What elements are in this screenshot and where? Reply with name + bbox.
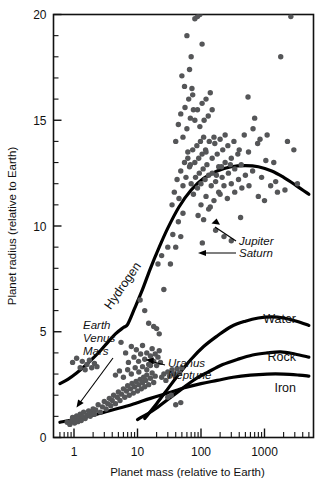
data-point xyxy=(206,113,211,118)
data-point xyxy=(238,215,243,220)
mass-radius-diagram: 051015201101001000Planet mass (relative … xyxy=(0,0,329,492)
data-point xyxy=(190,147,195,152)
data-point xyxy=(211,134,216,139)
data-point xyxy=(185,156,190,161)
data-point xyxy=(199,101,204,106)
data-point xyxy=(212,141,217,146)
neptune-label: Neptune xyxy=(168,369,211,381)
terrestrial-arrowhead xyxy=(77,400,84,408)
data-point xyxy=(169,202,174,207)
water-label: Water xyxy=(263,312,296,326)
data-point xyxy=(195,213,200,218)
uranus-label: Uranus xyxy=(168,357,205,369)
data-point xyxy=(148,376,153,381)
x-axis-title: Planet mass (relative to Earth) xyxy=(110,466,265,478)
data-point xyxy=(153,373,158,378)
data-point xyxy=(159,253,164,258)
data-point xyxy=(70,360,75,365)
data-point xyxy=(129,371,134,376)
data-point xyxy=(182,105,187,110)
data-point xyxy=(125,367,130,372)
data-point xyxy=(215,151,220,156)
data-point xyxy=(178,400,183,405)
data-point xyxy=(245,94,250,99)
data-point xyxy=(169,393,174,398)
data-point xyxy=(229,181,234,186)
jupiter-arrowhead xyxy=(212,219,221,225)
data-point xyxy=(178,234,183,239)
data-point xyxy=(126,360,131,365)
data-point xyxy=(217,192,222,197)
rock-label: Rock xyxy=(268,350,297,364)
data-point xyxy=(170,232,175,237)
data-point xyxy=(178,111,183,116)
y-tick-label-20: 20 xyxy=(33,8,47,22)
data-point xyxy=(93,407,98,412)
data-point xyxy=(199,41,204,46)
data-point xyxy=(123,350,128,355)
data-point xyxy=(98,409,103,414)
plot-canvas: 051015201101001000Planet mass (relative … xyxy=(0,0,329,492)
data-point xyxy=(173,402,178,407)
data-point xyxy=(220,147,225,152)
data-point xyxy=(250,168,255,173)
data-point xyxy=(182,160,187,165)
data-point xyxy=(200,166,205,171)
jupiter-leader-line xyxy=(215,227,236,241)
data-point xyxy=(216,164,221,169)
y-tick-label-5: 5 xyxy=(40,325,47,339)
iron-curve xyxy=(60,374,309,422)
data-point xyxy=(202,177,207,182)
data-point xyxy=(117,398,122,403)
iron-label: Iron xyxy=(274,381,296,395)
data-point xyxy=(213,179,218,184)
data-point xyxy=(113,372,118,377)
data-point xyxy=(174,177,179,182)
data-point xyxy=(173,139,178,144)
data-point xyxy=(140,343,145,348)
earth-label: Earth xyxy=(83,319,111,331)
data-point xyxy=(203,149,208,154)
data-point xyxy=(232,189,237,194)
data-point xyxy=(201,118,206,123)
data-point xyxy=(246,183,251,188)
data-point xyxy=(134,347,139,352)
data-point xyxy=(239,162,244,167)
data-point xyxy=(231,139,236,144)
data-point xyxy=(203,194,208,199)
data-point xyxy=(191,192,196,197)
data-point xyxy=(197,124,202,129)
data-point xyxy=(193,175,198,180)
data-point xyxy=(198,181,203,186)
data-point xyxy=(225,196,230,201)
data-point xyxy=(201,217,206,222)
data-point xyxy=(179,73,184,78)
data-point xyxy=(168,261,173,266)
data-point xyxy=(242,132,247,137)
data-point xyxy=(176,122,181,127)
data-point xyxy=(217,137,222,142)
data-point xyxy=(183,175,188,180)
data-point xyxy=(180,134,185,139)
data-point xyxy=(176,219,181,224)
y-axis-title: Planet radius (relative to Earth) xyxy=(6,147,18,306)
data-point xyxy=(222,160,227,165)
data-point xyxy=(186,96,191,101)
data-point xyxy=(194,143,199,148)
data-point xyxy=(209,107,214,112)
data-point xyxy=(278,54,283,59)
mars-label: Mars xyxy=(83,345,109,357)
data-point xyxy=(74,355,79,360)
x-tick-label-100: 100 xyxy=(191,445,211,459)
data-point xyxy=(161,287,166,292)
data-point xyxy=(271,160,276,165)
data-point xyxy=(263,158,268,163)
saturn-arrowhead xyxy=(198,250,206,256)
x-tick-label-1: 1 xyxy=(71,445,78,459)
data-point xyxy=(219,175,224,180)
data-point xyxy=(136,359,141,364)
data-point xyxy=(176,196,181,201)
y-tick-label-15: 15 xyxy=(33,114,47,128)
data-point xyxy=(264,132,269,137)
data-point xyxy=(192,160,197,165)
